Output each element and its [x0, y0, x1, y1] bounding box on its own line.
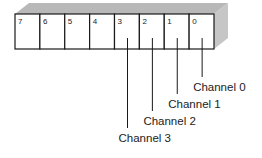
channel-register-diagram: 76543210 Channel 0Channel 1Channel 2Chan…	[0, 0, 262, 158]
channel-label-0: Channel 0	[193, 81, 245, 93]
cell-label-5: 5	[68, 17, 73, 26]
cell-label-4: 4	[93, 17, 98, 26]
cell-label-7: 7	[18, 17, 23, 26]
channel-leaders: Channel 0Channel 1Channel 2Channel 3	[119, 38, 246, 144]
channel-label-1: Channel 1	[168, 98, 220, 110]
cell-label-3: 3	[118, 17, 123, 26]
register-cells: 76543210	[15, 14, 214, 49]
box-top-face	[15, 3, 228, 14]
cell-label-0: 0	[192, 17, 197, 26]
cell-label-6: 6	[43, 17, 48, 26]
cell-label-2: 2	[142, 17, 147, 26]
channel-label-3: Channel 3	[119, 132, 171, 144]
channel-label-2: Channel 2	[143, 115, 195, 127]
cell-label-1: 1	[167, 17, 172, 26]
